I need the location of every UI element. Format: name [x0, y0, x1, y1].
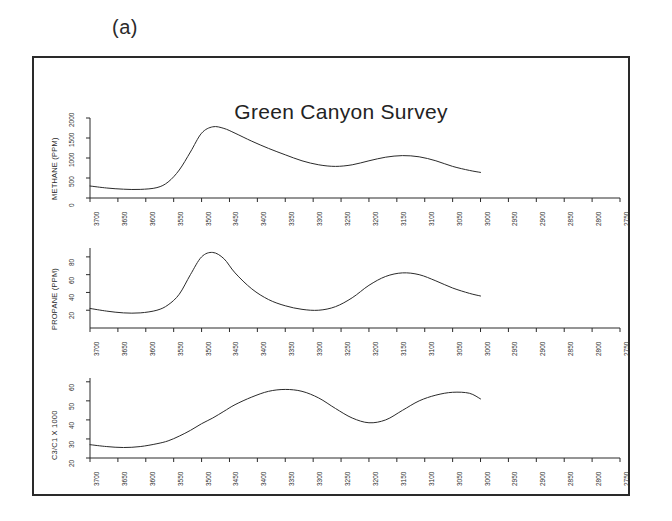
- x-tick-label: 3300: [316, 342, 323, 356]
- x-tick-label: 3300: [316, 212, 323, 226]
- x-tick-label: 3050: [456, 212, 463, 226]
- x-tick-label: 3600: [149, 212, 156, 226]
- x-tick-label: 2900: [539, 212, 546, 226]
- y-tick-label: 60: [68, 276, 75, 283]
- x-tick-label: 3450: [232, 472, 239, 486]
- x-tick-label: 3400: [260, 342, 267, 356]
- y-tick-label: 30: [68, 441, 75, 448]
- x-tick-label: 3450: [232, 212, 239, 226]
- x-tick-label: 3350: [288, 472, 295, 486]
- x-tick-label: 3600: [149, 342, 156, 356]
- y-tick-label: 1500: [68, 133, 75, 147]
- x-tick-label: 3250: [344, 342, 351, 356]
- x-tick-label: 2950: [511, 472, 518, 486]
- x-tick-label: 2750: [623, 342, 630, 356]
- x-tick-label: 3700: [93, 472, 100, 486]
- x-tick-label: 3400: [260, 212, 267, 226]
- x-tick-label: 3000: [484, 472, 491, 486]
- y-tick-label: 50: [68, 403, 75, 410]
- x-tick-label: 2900: [539, 342, 546, 356]
- x-tick-label: 3600: [149, 472, 156, 486]
- data-curve-ratio: [90, 389, 481, 447]
- x-tick-label: 3350: [288, 212, 295, 226]
- x-tick-label: 3350: [288, 342, 295, 356]
- x-tick-label: 3000: [484, 212, 491, 226]
- x-tick-label: 2850: [567, 342, 574, 356]
- chart-panel-propane: PROPANE (PPM)204060803700365036003550350…: [34, 240, 632, 372]
- x-tick-label: 3300: [316, 472, 323, 486]
- axis-spines: [90, 118, 620, 198]
- y-axis-title-ratio: C3/C1 X 1000: [50, 410, 59, 460]
- y-tick-label: 20: [68, 312, 75, 319]
- x-tick-label: 3650: [121, 212, 128, 226]
- x-tick-label: 2850: [567, 472, 574, 486]
- y-axis-title-methane: METHANE (PPM): [50, 137, 59, 200]
- x-tick-label: 3400: [260, 472, 267, 486]
- x-tick-label: 3700: [93, 212, 100, 226]
- x-tick-label: 3100: [428, 342, 435, 356]
- x-tick-label: 3050: [456, 472, 463, 486]
- x-tick-label: 3500: [205, 342, 212, 356]
- y-tick-label: 40: [68, 422, 75, 429]
- x-tick-label: 2850: [567, 212, 574, 226]
- x-tick-label: 3150: [400, 472, 407, 486]
- axis-spines: [90, 378, 620, 458]
- x-tick-label: 3700: [93, 342, 100, 356]
- x-tick-label: 3100: [428, 472, 435, 486]
- x-tick-label: 2750: [623, 472, 630, 486]
- x-tick-label: 2800: [595, 342, 602, 356]
- figure-frame: Green Canyon Survey METHANE (PPM)0500100…: [32, 56, 630, 496]
- y-tick-label: 0: [68, 203, 75, 207]
- panel-label: (a): [112, 16, 138, 39]
- x-tick-label: 3150: [400, 212, 407, 226]
- x-tick-label: 2950: [511, 212, 518, 226]
- data-curve-methane: [90, 127, 481, 190]
- y-tick-label: 2000: [68, 113, 75, 127]
- y-tick-label: 20: [68, 460, 75, 467]
- chart-panel-ratio: C3/C1 X 10002030405060370036503600355035…: [34, 370, 632, 502]
- x-tick-label: 3500: [205, 472, 212, 486]
- chart-panel-methane: METHANE (PPM)050010001500200037003650360…: [34, 110, 632, 242]
- figure-root: (a) Green Canyon Survey METHANE (PPM)050…: [0, 0, 672, 521]
- x-tick-label: 3100: [428, 212, 435, 226]
- y-tick-label: 80: [68, 259, 75, 266]
- data-curve-propane: [90, 252, 481, 313]
- x-tick-label: 2950: [511, 342, 518, 356]
- x-tick-label: 3200: [372, 212, 379, 226]
- x-tick-label: 3150: [400, 342, 407, 356]
- y-axis-title-propane: PROPANE (PPM): [50, 268, 59, 330]
- x-tick-label: 3650: [121, 342, 128, 356]
- y-tick-label: 60: [68, 384, 75, 391]
- x-tick-label: 2750: [623, 212, 630, 226]
- y-tick-label: 500: [68, 176, 75, 187]
- x-tick-label: 3550: [177, 212, 184, 226]
- x-tick-label: 3650: [121, 472, 128, 486]
- axis-spines: [90, 248, 620, 328]
- x-tick-label: 3500: [205, 212, 212, 226]
- x-tick-label: 2900: [539, 472, 546, 486]
- y-tick-label: 40: [68, 294, 75, 301]
- x-tick-label: 3250: [344, 472, 351, 486]
- x-tick-label: 3450: [232, 342, 239, 356]
- x-tick-label: 3200: [372, 342, 379, 356]
- x-tick-label: 3200: [372, 472, 379, 486]
- x-tick-label: 3550: [177, 342, 184, 356]
- x-tick-label: 3050: [456, 342, 463, 356]
- x-tick-label: 3000: [484, 342, 491, 356]
- x-tick-label: 2800: [595, 212, 602, 226]
- x-tick-label: 3250: [344, 212, 351, 226]
- x-tick-label: 2800: [595, 472, 602, 486]
- y-tick-label: 1000: [68, 153, 75, 167]
- x-tick-label: 3550: [177, 472, 184, 486]
